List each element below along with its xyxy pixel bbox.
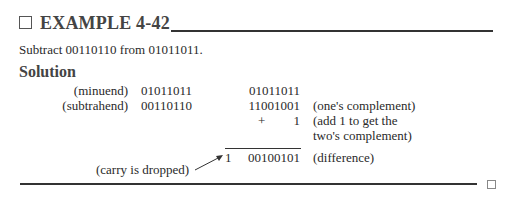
add-one-value: 1 <box>294 113 301 129</box>
right-minuend: 01011011 <box>249 83 300 99</box>
minuend-value: 01011011 <box>141 83 192 99</box>
problem-statement: Subtract 00110110 from 01011011. <box>19 42 203 58</box>
sum-rule <box>225 148 301 149</box>
arrow-icon <box>194 152 226 172</box>
square-outline-icon <box>19 16 32 29</box>
add-note-line2: two's complement) <box>313 128 412 144</box>
subtrahend-label: (subtrahend) <box>62 98 128 114</box>
ones-complement-note: (one's complement) <box>313 98 415 114</box>
heading-rule <box>171 30 493 32</box>
example-heading: EXAMPLE 4-42 <box>19 13 170 34</box>
subtrahend-value: 00110110 <box>141 98 192 114</box>
square-outline-icon <box>487 180 496 189</box>
example-title: EXAMPLE 4-42 <box>40 13 170 33</box>
minuend-label: (minuend) <box>74 83 128 99</box>
add-note-line1: (add 1 to get the <box>313 113 397 129</box>
solution-heading: Solution <box>19 63 76 81</box>
difference-note: (difference) <box>313 150 374 166</box>
ones-complement-value: 11001001 <box>248 98 300 114</box>
difference-value: 00100101 <box>248 150 300 166</box>
plus-sign: + <box>258 113 265 129</box>
carry-note: (carry is dropped) <box>96 162 189 178</box>
bottom-rule <box>20 183 477 185</box>
